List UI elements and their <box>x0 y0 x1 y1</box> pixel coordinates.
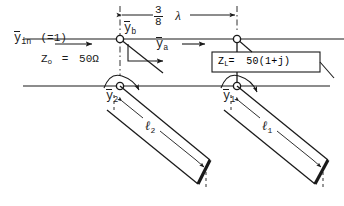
stub-1-length-dimension <box>231 95 323 188</box>
stub-2-line <box>107 86 210 184</box>
figure-canvas: yin (=1) Zo = 50Ω 3 8 λ yb ya ZL= 50(1+j… <box>0 0 344 206</box>
node-load-terminal <box>233 35 240 42</box>
load-impedance-label: ZL= 50(1+j) <box>218 56 290 68</box>
characteristic-impedance-label: Zo = 50Ω <box>41 54 99 67</box>
stub-spacing-label: 3 8 λ <box>154 5 181 28</box>
y-in-label: yin (=1) <box>14 32 67 46</box>
y-a-label: ya <box>156 38 168 52</box>
node-b-terminal <box>116 35 123 42</box>
stub-2-length-label: ℓ2 <box>145 118 155 135</box>
stub-1-length-label: ℓ1 <box>262 118 272 135</box>
schematic-drawing <box>0 0 344 206</box>
y-1-label: y1 <box>223 90 235 104</box>
y-2-label: y2 <box>106 90 118 104</box>
stub-1-line <box>224 86 328 184</box>
y-b-label: yb <box>124 22 136 36</box>
stub-2-length-dimension <box>114 95 206 188</box>
